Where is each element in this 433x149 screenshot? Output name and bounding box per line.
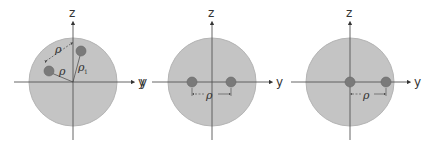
y-axis-label: y <box>414 75 421 89</box>
radius-label-b-subscript: 1 <box>84 68 88 75</box>
separation-label: ρ <box>205 89 213 102</box>
particle-a <box>345 77 355 87</box>
z-axis-label: z <box>208 6 214 20</box>
panel-2: z y y ρ <box>140 6 283 140</box>
diagram-canvas: z y ρ ρ ρ 1 z y y ρ z y <box>0 0 433 149</box>
separation-label: ρ <box>54 43 62 56</box>
radius-label-a: ρ <box>58 65 66 78</box>
particle-a <box>187 77 197 87</box>
particle-b <box>76 46 86 56</box>
panel-1: z y ρ ρ ρ 1 <box>14 6 145 140</box>
particle-b <box>381 77 391 87</box>
z-axis-label: z <box>346 6 352 20</box>
z-axis-label: z <box>69 6 75 20</box>
y-axis-label-left: y <box>140 75 147 89</box>
particle-b <box>226 77 236 87</box>
separation-label: ρ <box>362 89 370 102</box>
particle-a <box>44 66 54 76</box>
y-axis-label: y <box>276 75 283 89</box>
panel-3: z y ρ <box>291 6 421 140</box>
